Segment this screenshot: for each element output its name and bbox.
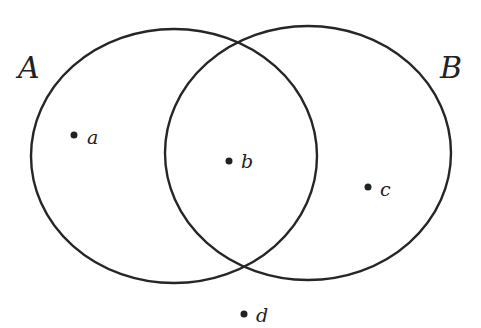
set-a-label: A — [15, 50, 40, 85]
venn-diagram: A B a b c d — [0, 0, 481, 328]
set-b-ellipse — [165, 26, 451, 280]
point-d-dot — [241, 311, 248, 318]
point-c-dot — [365, 184, 372, 191]
point-a-label: a — [87, 126, 98, 148]
point-a-dot — [71, 132, 78, 139]
point-d-label: d — [256, 304, 268, 326]
point-b-dot — [226, 158, 233, 165]
point-b-label: b — [241, 150, 253, 172]
point-c-label: c — [380, 178, 391, 200]
set-a-ellipse — [31, 29, 317, 283]
set-b-label: B — [439, 50, 462, 85]
